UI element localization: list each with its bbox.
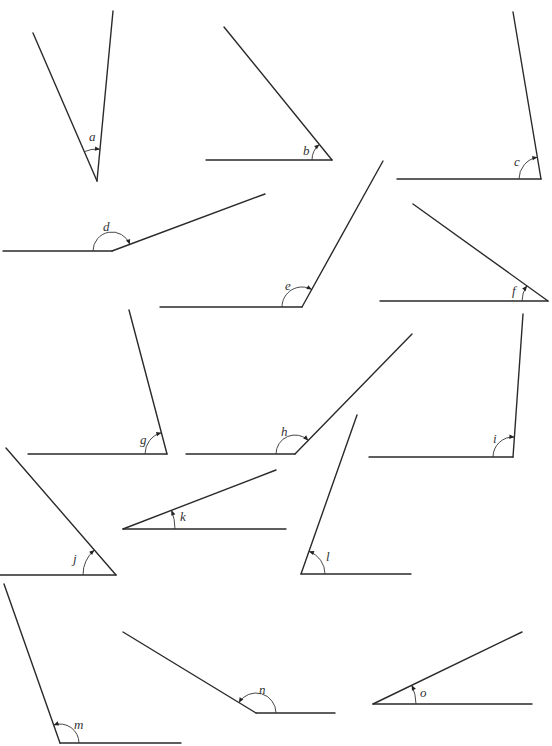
angle-label-n: n xyxy=(259,682,266,697)
angle-d: d xyxy=(3,194,265,251)
angle-n-arc xyxy=(239,693,276,713)
angle-c-arc xyxy=(519,157,537,179)
angle-n-arm-2 xyxy=(123,632,256,713)
angle-m-arm-2 xyxy=(4,584,60,743)
angle-a-arm-2 xyxy=(97,11,113,181)
angle-i-arm-2 xyxy=(513,314,523,457)
angle-j: j xyxy=(0,448,116,575)
angle-c: c xyxy=(397,12,541,179)
angle-k-arm-2 xyxy=(123,470,276,529)
arrowhead-icon xyxy=(171,510,175,515)
angle-f: f xyxy=(380,204,548,301)
angle-j-arm-2 xyxy=(6,448,116,575)
angle-label-o: o xyxy=(420,685,427,700)
angle-b: b xyxy=(206,27,332,160)
angle-label-c: c xyxy=(514,154,520,169)
angle-label-i: i xyxy=(493,431,497,446)
angle-a: a xyxy=(33,11,113,181)
angle-m: m xyxy=(4,584,181,743)
angle-d-arc xyxy=(93,232,130,251)
angle-o-arm-2 xyxy=(373,632,522,704)
arrowhead-icon xyxy=(303,435,308,440)
angle-g-arc xyxy=(145,433,161,454)
angle-n: n xyxy=(123,632,335,713)
angle-e: e xyxy=(160,161,383,307)
angle-e-arm-2 xyxy=(302,161,383,307)
angle-d-arm-2 xyxy=(112,194,265,251)
angle-label-g: g xyxy=(140,432,147,447)
arrowhead-icon xyxy=(126,239,130,244)
angle-i: i xyxy=(369,314,523,457)
angle-label-m: m xyxy=(74,717,83,732)
angle-label-e: e xyxy=(285,278,291,293)
angle-label-a: a xyxy=(89,129,96,144)
arrowhead-icon xyxy=(314,144,319,149)
angle-label-b: b xyxy=(303,143,310,158)
angle-o: o xyxy=(373,632,532,704)
angles-diagram: abcdefghijklmno xyxy=(0,0,552,746)
angle-label-f: f xyxy=(512,283,518,298)
angle-j-arc xyxy=(83,550,94,575)
arrowhead-icon xyxy=(309,551,314,555)
angle-h-arm-2 xyxy=(295,334,412,454)
angle-label-d: d xyxy=(103,219,110,234)
angle-label-l: l xyxy=(326,549,330,564)
angle-label-k: k xyxy=(180,509,186,524)
angle-f-arm-2 xyxy=(413,204,548,301)
angles-layer: abcdefghijklmno xyxy=(0,11,548,743)
angle-label-h: h xyxy=(281,424,288,439)
angle-label-j: j xyxy=(71,551,77,566)
angle-l: l xyxy=(301,415,411,574)
angle-b-arm-2 xyxy=(224,27,332,160)
angle-h: h xyxy=(186,334,412,454)
angle-g: g xyxy=(28,310,167,454)
angle-a-arm-1 xyxy=(33,33,97,181)
angle-k: k xyxy=(123,470,286,529)
angle-l-arc xyxy=(309,551,325,574)
arrowhead-icon xyxy=(54,721,59,725)
